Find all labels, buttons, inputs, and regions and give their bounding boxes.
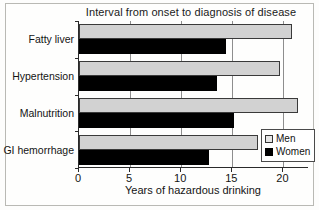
- bar-men-gi-hemorrhage: [79, 135, 258, 150]
- x-axis-title: Years of hazardous drinking: [78, 184, 308, 197]
- category-label: GI hemorrhage: [3, 144, 74, 156]
- bar-women-malnutrition: [79, 113, 234, 128]
- legend-swatch-women-icon: [265, 148, 273, 156]
- legend-item-men: Men: [265, 132, 311, 145]
- legend-label: Men: [276, 133, 295, 144]
- bar-women-gi-hemorrhage: [79, 150, 209, 165]
- category-label: Fatty liver: [28, 33, 74, 45]
- bar-women-hypertension: [79, 76, 217, 91]
- y-axis-tick: [75, 21, 79, 22]
- bar-men-fatty-liver: [79, 24, 292, 39]
- y-axis-tick: [75, 131, 79, 132]
- chart-legend: MenWomen: [261, 129, 315, 162]
- legend-label: Women: [276, 146, 310, 157]
- bar-women-fatty-liver: [79, 39, 226, 54]
- legend-swatch-men-icon: [265, 135, 273, 143]
- category-label: Hypertension: [12, 70, 74, 82]
- legend-item-women: Women: [265, 145, 311, 158]
- bar-men-hypertension: [79, 61, 280, 76]
- y-axis-tick: [75, 58, 79, 59]
- y-axis-tick: [75, 95, 79, 96]
- bar-men-malnutrition: [79, 98, 298, 113]
- figure-root: Interval from onset to diagnosis of dise…: [0, 0, 319, 210]
- category-label: Malnutrition: [20, 107, 74, 119]
- chart-title: Interval from onset to diagnosis of dise…: [74, 6, 308, 19]
